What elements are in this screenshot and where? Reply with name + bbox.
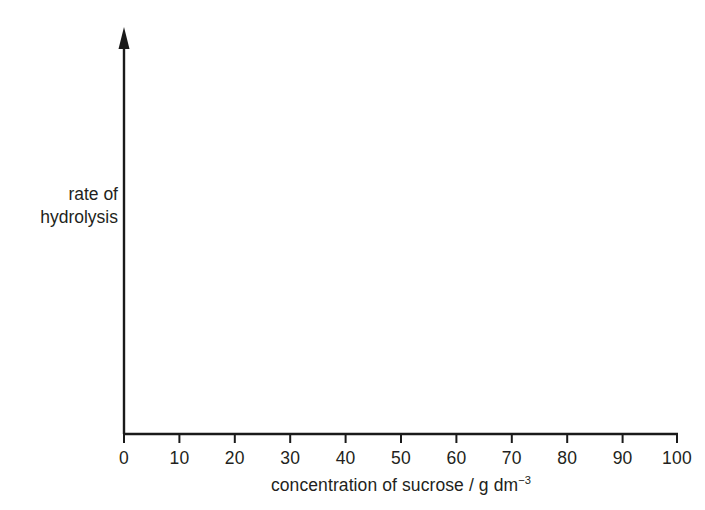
y-axis-title-line-2: hydrolysis	[40, 206, 118, 229]
x-tick-label-30: 30	[280, 450, 300, 468]
y-axis-title: rate of hydrolysis	[40, 183, 118, 229]
x-tick-label-0: 0	[119, 450, 129, 468]
x-tick-label-10: 10	[169, 450, 189, 468]
x-tick-label-90: 90	[613, 450, 633, 468]
x-axis-title: concentration of sucrose / g dm−3	[271, 477, 531, 495]
x-tick-label-70: 70	[502, 450, 522, 468]
y-axis-arrow-icon	[119, 27, 130, 49]
x-axis-ticks	[124, 434, 677, 443]
x-axis-title-text: concentration of sucrose / g dm	[271, 475, 518, 495]
axes-svg	[0, 0, 705, 510]
x-tick-label-100: 100	[662, 450, 692, 468]
x-tick-label-40: 40	[336, 450, 356, 468]
y-axis-title-line-1: rate of	[40, 183, 118, 206]
x-tick-label-80: 80	[557, 450, 577, 468]
x-tick-label-60: 60	[446, 450, 466, 468]
chart-figure: rate of hydrolysis 0 10 20 30 40 50 60 7…	[0, 0, 705, 510]
x-tick-label-50: 50	[391, 450, 411, 468]
x-axis-title-exponent: −3	[518, 474, 531, 486]
x-tick-label-20: 20	[225, 450, 245, 468]
